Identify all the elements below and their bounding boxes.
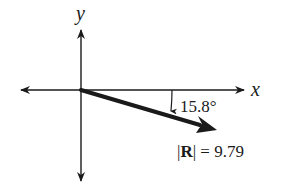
angle-label: 15.8° — [180, 97, 217, 116]
angle-indicator-arrow — [171, 90, 172, 111]
y-axis-label: y — [74, 2, 85, 25]
vector-diagram: y x 15.8° |R| = 9.79 — [0, 0, 282, 183]
magnitude-label: |R| = 9.79 — [177, 142, 244, 161]
x-axis-label: x — [250, 78, 260, 100]
